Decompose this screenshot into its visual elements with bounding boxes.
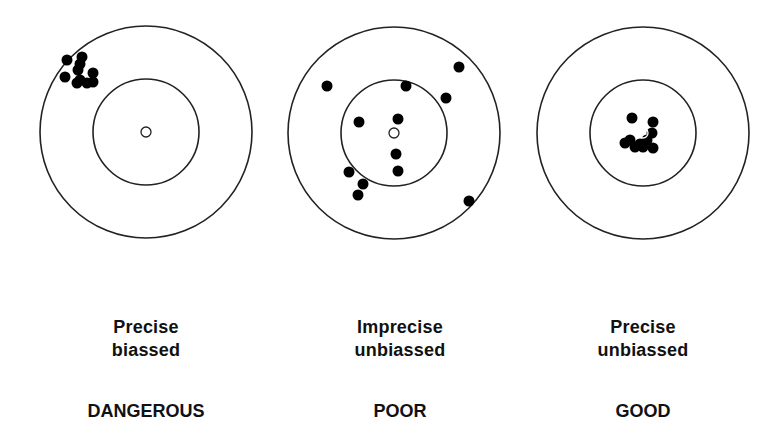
bullseye [141,127,151,137]
shot-dot [393,114,404,125]
shot-dot [401,81,412,92]
shot-dot [441,93,452,104]
target-poor [288,27,500,239]
shot-dot [353,190,364,201]
description-line: Precise [36,316,256,339]
shot-dot [73,65,84,76]
description-line: unbiassed [290,339,510,362]
shot-dot [322,81,333,92]
description-line: Precise [533,316,753,339]
shot-dot [60,72,71,83]
description-imprecise-unbiassed: Imprecise unbiassed [290,316,510,362]
shot-dot [82,78,93,89]
shot-dot [648,143,659,154]
shot-dot [464,196,475,207]
shot-dot [648,117,659,128]
target-diagram [0,0,777,260]
target-dangerous [40,26,252,238]
description-precise-biassed: Precise biassed [36,316,256,362]
bullseye [389,128,399,138]
shot-dot [393,166,404,177]
target-good [537,27,749,239]
shot-dot [454,62,465,73]
shot-dot [620,138,631,149]
outer-ring [537,27,749,239]
description-line: unbiassed [533,339,753,362]
shot-dot [62,55,73,66]
inner-ring [590,80,696,186]
verdict-dangerous: DANGEROUS [36,400,256,422]
verdict-good: GOOD [533,400,753,422]
shot-dot [391,149,402,160]
description-line: biassed [36,339,256,362]
shot-dot [354,117,365,128]
shot-dot [358,179,369,190]
shot-dot [72,78,83,89]
shot-dot [344,167,355,178]
description-precise-unbiassed: Precise unbiassed [533,316,753,362]
verdict-poor: POOR [290,400,510,422]
shot-dot [635,139,646,150]
shot-dot [627,113,638,124]
description-line: Imprecise [290,316,510,339]
